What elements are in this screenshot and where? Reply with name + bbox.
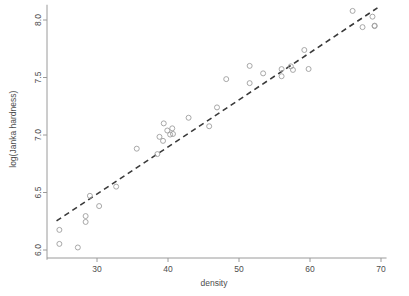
y-axis-title: log(Janka hardness) [8,91,18,168]
data-point [306,66,311,71]
data-point [207,124,212,129]
data-point [161,138,166,143]
y-axis-tick-label: 7.0 [33,129,43,141]
data-point [57,241,62,246]
data-point [87,193,92,198]
x-axis-tick-label: 70 [376,264,386,274]
data-point [247,63,252,68]
data-point [370,14,375,19]
data-point [186,115,191,120]
data-point [114,184,119,189]
x-axis-tick-label: 60 [305,264,315,274]
data-point [83,219,88,224]
regression-line [57,8,378,221]
y-axis-tick-label: 6.0 [33,244,43,256]
data-point [83,214,88,219]
data-point [57,227,62,232]
y-axis-tick-label: 8.0 [33,14,43,26]
chart-canvas: 6.06.57.07.58.03040506070densitylog(Jank… [0,0,409,296]
data-point [161,121,166,126]
x-axis-tick-label: 30 [92,264,102,274]
y-axis-tick-label: 6.5 [33,186,43,198]
data-point [170,126,175,131]
data-point [350,8,355,13]
x-axis-tick-label: 50 [234,264,244,274]
data-point [97,204,102,209]
data-point [261,71,266,76]
data-point [302,48,307,53]
data-point [279,74,284,79]
data-point [134,146,139,151]
data-point [155,152,160,157]
data-point [360,25,365,30]
data-point [75,245,80,250]
data-point [224,77,229,82]
y-axis-tick-label: 7.5 [33,71,43,83]
data-point [247,81,252,86]
x-axis-tick-label: 40 [163,264,173,274]
scatter-plot-figure: 6.06.57.07.58.03040506070densitylog(Jank… [0,0,409,296]
data-point [214,105,219,110]
x-axis-title: density [201,278,229,288]
